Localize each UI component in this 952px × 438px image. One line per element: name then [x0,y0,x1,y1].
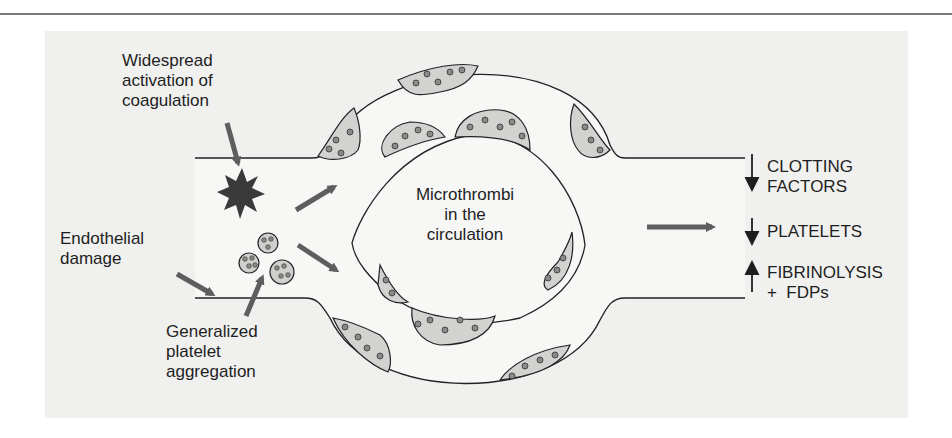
label-generalized: Generalizedplateletaggregation [166,322,258,382]
outcome-platelets: PLATELETS [767,222,862,242]
outcome-arrows [746,154,758,292]
outcome-fibrinolysis: FIBRINOLYSIS+ FDPs [767,263,883,303]
label-microthrombi: Microthrombiin thecirculation [395,185,535,245]
outcome-clotting-factors: CLOTTINGFACTORS [767,157,853,197]
label-widespread: Widespreadactivation ofcoagulation [122,51,213,111]
arrow-widespread [227,123,238,163]
label-endothelial: Endothelialdamage [60,229,144,269]
